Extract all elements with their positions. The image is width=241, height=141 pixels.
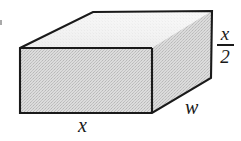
label-height-x-over-2: x 2 [213, 24, 237, 66]
front-face-texture [20, 48, 152, 113]
scan-artifact-mark [0, 20, 2, 25]
geometry-figure: x w x 2 [0, 0, 241, 141]
rectangular-prism-drawing [0, 0, 241, 141]
prism-front-face [20, 48, 152, 113]
label-length-x: x [78, 115, 87, 135]
fraction-denominator: 2 [219, 47, 231, 66]
fraction-numerator: x [220, 24, 230, 43]
label-depth-w: w [185, 97, 198, 117]
